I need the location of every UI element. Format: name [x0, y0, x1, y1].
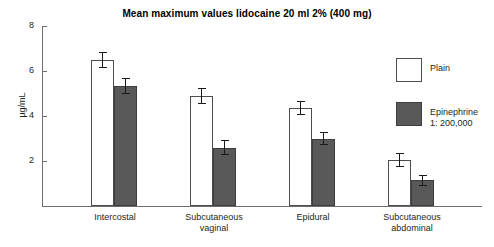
error-cap-bottom [297, 114, 305, 115]
y-axis-title: µg/mL [17, 75, 27, 135]
bar-plain-3 [289, 108, 312, 206]
bar-plain-1 [91, 60, 114, 206]
error-bar-epinephrine-3 [320, 132, 328, 146]
chart-title: Mean maximum values lidocaine 20 ml 2% (… [0, 8, 494, 19]
x-axis-label-4: Subcutaneous abdominal [366, 212, 458, 234]
legend-swatch-plain [396, 58, 422, 82]
bar-epinephrine-1 [114, 86, 137, 206]
bar-epinephrine-3 [312, 139, 335, 207]
y-tick-6 [42, 71, 47, 72]
error-bar-epinephrine-4 [419, 175, 427, 186]
x-axis-label-1: Intercostal [69, 212, 161, 223]
error-bar-plain-4 [396, 153, 404, 167]
bar-chart-figure: Mean maximum values lidocaine 20 ml 2% (… [0, 0, 494, 247]
error-bar-plain-2 [198, 88, 206, 104]
error-stem [323, 132, 324, 146]
error-bar-epinephrine-2 [221, 140, 229, 156]
error-stem [224, 140, 225, 156]
x-axis-label-2: Subcutaneous vaginal [168, 212, 260, 234]
y-tick-label-2: 2 [8, 156, 34, 165]
x-axis-label-3: Epidural [267, 212, 359, 223]
y-tick-2 [42, 161, 47, 162]
error-stem [125, 78, 126, 94]
legend-label-epinephrine: Epinephrine 1: 200,000 [430, 107, 478, 129]
error-stem [300, 101, 301, 115]
legend-label-plain: Plain [430, 63, 450, 74]
error-bar-epinephrine-1 [122, 78, 130, 94]
error-cap-bottom [419, 185, 427, 186]
error-cap-bottom [198, 103, 206, 104]
y-tick-4 [42, 116, 47, 117]
bar-plain-2 [190, 96, 213, 206]
error-cap-bottom [396, 166, 404, 167]
bar-plain-4 [388, 160, 411, 206]
error-stem [201, 88, 202, 104]
error-cap-bottom [221, 154, 229, 155]
error-bar-plain-3 [297, 101, 305, 115]
error-bar-plain-1 [99, 52, 107, 68]
error-cap-bottom [122, 93, 130, 94]
legend-item-plain: Plain [396, 58, 492, 84]
y-tick-8 [42, 26, 47, 27]
error-stem [399, 153, 400, 167]
y-tick-label-4: 4 [8, 111, 34, 120]
y-tick-label-8: 8 [8, 21, 34, 30]
error-cap-bottom [99, 67, 107, 68]
bar-epinephrine-2 [213, 148, 236, 207]
legend-item-epinephrine: Epinephrine 1: 200,000 [396, 102, 492, 128]
error-cap-bottom [320, 144, 328, 145]
error-stem [102, 52, 103, 68]
x-axis-line [42, 206, 482, 207]
y-tick-label-6: 6 [8, 66, 34, 75]
legend-swatch-epinephrine [396, 102, 422, 126]
